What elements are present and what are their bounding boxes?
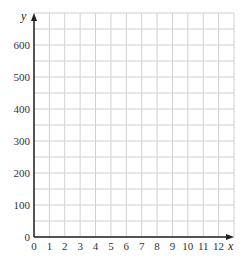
x-tick-label: 3: [77, 240, 83, 252]
x-tick-label: 7: [139, 240, 145, 252]
y-tick-labels: 0100200300400500600: [14, 39, 31, 243]
y-tick-label: 300: [14, 135, 31, 147]
x-tick-labels: 0123456789101112: [31, 240, 224, 252]
blank-coordinate-grid: 0123456789101112 0100200300400500600 x y: [0, 0, 249, 267]
x-tick-label: 0: [31, 240, 37, 252]
x-tick-label: 8: [154, 240, 160, 252]
grid-lines: [34, 13, 234, 237]
x-tick-label: 1: [47, 240, 53, 252]
y-tick-label: 600: [14, 39, 31, 51]
y-tick-label: 400: [14, 103, 31, 115]
x-tick-label: 10: [182, 240, 194, 252]
y-tick-label: 500: [14, 71, 31, 83]
x-tick-label: 4: [93, 240, 99, 252]
x-tick-label: 2: [62, 240, 68, 252]
y-tick-label: 200: [14, 167, 31, 179]
x-tick-label: 9: [170, 240, 176, 252]
y-tick-label: 100: [14, 199, 31, 211]
x-tick-label: 12: [213, 240, 224, 252]
x-tick-label: 11: [198, 240, 209, 252]
y-tick-label: 0: [25, 231, 31, 243]
x-axis-label: x: [227, 239, 234, 253]
x-tick-label: 5: [108, 240, 114, 252]
y-axis-label: y: [20, 9, 27, 23]
x-tick-label: 6: [124, 240, 130, 252]
y-axis-arrow-icon: [31, 13, 37, 21]
